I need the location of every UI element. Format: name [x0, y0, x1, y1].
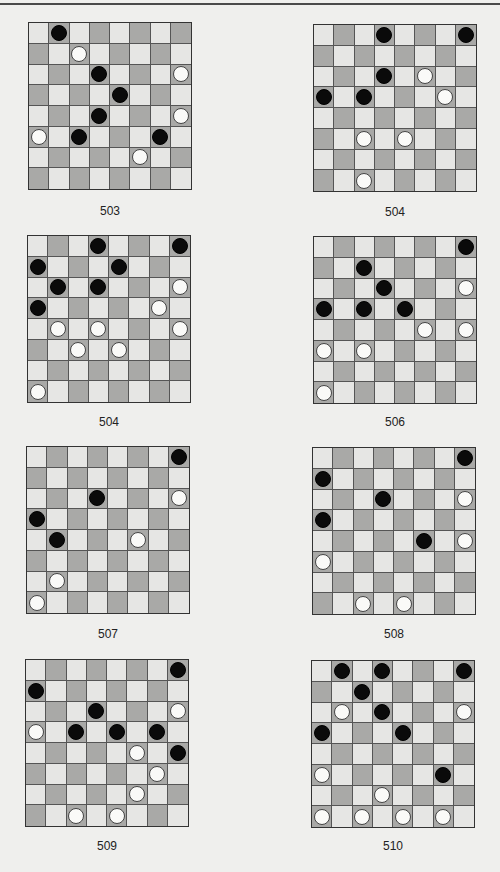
light-square	[415, 170, 435, 191]
checkers-puzzle	[28, 22, 192, 190]
black-checker-piece-icon	[315, 512, 331, 528]
light-square	[395, 67, 415, 88]
white-checker-piece-icon	[30, 384, 46, 400]
checkers-board	[311, 660, 475, 828]
dark-square	[90, 65, 110, 86]
dark-square	[129, 319, 149, 340]
light-square	[355, 150, 375, 171]
black-checker-piece-icon	[435, 767, 451, 783]
dark-square	[168, 743, 188, 764]
black-checker-piece-icon	[68, 724, 84, 740]
light-square	[375, 299, 395, 320]
light-square	[26, 743, 46, 764]
light-square	[107, 743, 127, 764]
black-checker-piece-icon	[170, 745, 186, 761]
light-square	[434, 661, 454, 682]
light-square	[314, 150, 334, 171]
light-square	[334, 341, 354, 362]
dark-square	[129, 361, 149, 382]
dark-square	[454, 786, 474, 807]
dark-square	[151, 127, 171, 148]
black-checker-piece-icon	[354, 684, 370, 700]
dark-square	[108, 468, 128, 489]
dark-square	[170, 361, 190, 382]
white-checker-piece-icon	[437, 89, 453, 105]
light-square	[354, 490, 374, 511]
dark-square	[170, 319, 190, 340]
dark-square	[332, 661, 352, 682]
dark-square	[333, 531, 353, 552]
dark-square	[415, 108, 435, 129]
light-square	[436, 25, 456, 46]
dark-square	[334, 108, 354, 129]
dark-square	[353, 765, 373, 786]
dark-square	[109, 298, 129, 319]
light-square	[29, 148, 49, 169]
black-checker-piece-icon	[90, 279, 106, 295]
light-square	[47, 468, 67, 489]
light-square	[374, 552, 394, 573]
light-square	[170, 381, 190, 402]
dark-square	[374, 490, 394, 511]
black-checker-piece-icon	[458, 27, 474, 43]
light-square	[334, 129, 354, 150]
dark-square	[148, 722, 168, 743]
light-square	[436, 320, 456, 341]
white-checker-piece-icon	[316, 385, 332, 401]
dark-square	[148, 805, 168, 826]
light-square	[373, 806, 393, 827]
dark-square	[27, 509, 47, 530]
dark-square	[413, 661, 433, 682]
dark-square	[436, 299, 456, 320]
white-checker-piece-icon	[129, 786, 145, 802]
light-square	[46, 805, 66, 826]
dark-square	[313, 469, 333, 490]
light-square	[434, 786, 454, 807]
white-checker-piece-icon	[149, 766, 165, 782]
dark-square	[128, 447, 148, 468]
dark-square	[128, 572, 148, 593]
puzzle-number-label: 506	[313, 415, 477, 429]
dark-square	[375, 108, 395, 129]
dark-square	[355, 46, 375, 67]
light-square	[334, 46, 354, 67]
dark-square	[90, 106, 110, 127]
dark-square	[169, 447, 189, 468]
dark-square	[88, 530, 108, 551]
light-square	[334, 258, 354, 279]
light-square	[149, 530, 169, 551]
black-checker-piece-icon	[30, 300, 46, 316]
light-square	[130, 168, 150, 189]
light-square	[334, 299, 354, 320]
light-square	[375, 382, 395, 403]
dark-square	[48, 319, 68, 340]
dark-square	[27, 592, 47, 613]
light-square	[129, 257, 149, 278]
light-square	[171, 85, 191, 106]
dark-square	[46, 702, 66, 723]
light-square	[108, 447, 128, 468]
light-square	[68, 530, 88, 551]
light-square	[395, 237, 415, 258]
light-square	[128, 592, 148, 613]
dark-square	[414, 490, 434, 511]
light-square	[110, 148, 130, 169]
light-square	[375, 258, 395, 279]
dark-square	[29, 85, 49, 106]
puzzle-number-label: 510	[311, 839, 475, 853]
checkers-puzzle	[25, 659, 189, 827]
light-square	[88, 468, 108, 489]
black-checker-piece-icon	[334, 663, 350, 679]
dark-square	[375, 320, 395, 341]
dark-square	[334, 150, 354, 171]
light-square	[109, 236, 129, 257]
dark-square	[413, 703, 433, 724]
dark-square	[46, 743, 66, 764]
dark-square	[67, 805, 87, 826]
dark-square	[29, 127, 49, 148]
black-checker-piece-icon	[458, 239, 474, 255]
white-checker-piece-icon	[71, 46, 87, 62]
dark-square	[435, 593, 455, 614]
black-checker-piece-icon	[112, 87, 128, 103]
dark-square	[169, 572, 189, 593]
